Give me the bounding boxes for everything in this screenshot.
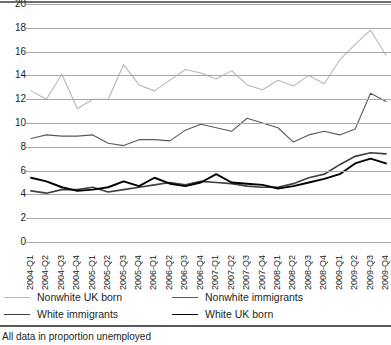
x-axis-tick-label: 2007-Q1 [211,255,220,290]
footnote-divider [0,325,391,327]
x-axis-tick-label: 2005-Q1 [88,255,97,290]
x-axis-tick-label: 2005-Q3 [119,255,128,290]
gridline [30,147,391,148]
legend-label: Nonwhite immigrants [205,292,303,303]
gridline [30,123,391,124]
legend-item[interactable]: Nonwhite immigrants [172,292,303,303]
x-axis-tick-label: 2009-Q3 [366,255,375,290]
gridline [30,4,391,5]
x-axis-tick-label: 2006-Q2 [165,255,174,290]
y-axis-tick [26,75,30,76]
x-axis-tick-label: 2009-Q1 [335,255,344,290]
y-axis-tick [26,123,30,124]
gridline [30,194,391,195]
legend-item[interactable]: White UK born [172,309,273,320]
y-axis-tick [26,194,30,195]
gridline [30,28,391,29]
y-axis-tick [26,147,30,148]
x-axis-tick-label: 2004-Q3 [57,255,66,290]
x-axis-tick-label: 2007-Q4 [258,255,267,290]
y-axis-tick [26,4,30,5]
x-axis-tick-label: 2007-Q2 [227,255,236,290]
gridline [30,99,391,100]
plot-wrapper: 02468101214161820 [0,4,391,242]
x-axis-tick-label: 2006-Q3 [180,255,189,290]
series-line [31,159,386,191]
y-axis-tick [26,218,30,219]
legend-swatch [4,314,30,315]
series-line [31,30,386,109]
x-axis-tick-label: 2009-Q4 [381,255,390,290]
legend-item[interactable]: Nonwhite UK born [4,292,122,303]
series-line [31,153,386,193]
legend-item[interactable]: White immigrants [4,309,118,320]
x-axis-tick-label: 2006-Q4 [196,255,205,290]
legend-label: White immigrants [37,309,118,320]
y-axis-tick-label: 14 [15,70,26,80]
x-axis-tick-label: 2008-Q2 [288,255,297,290]
legend-label: White UK born [205,309,273,320]
y-axis-tick-label: 18 [15,23,26,33]
footnote-text: All data in proportion unemployed [2,331,151,342]
legend-swatch [172,314,198,315]
x-axis-tick-label: 2006-Q1 [149,255,158,290]
legend-label: Nonwhite UK born [37,292,122,303]
y-axis-tick [26,28,30,29]
gridline [30,242,391,243]
legend-swatch [4,297,30,298]
x-axis-tick-label: 2008-Q1 [273,255,282,290]
x-axis-tick-label: 2007-Q3 [242,255,251,290]
x-axis-tick-label: 2005-Q4 [134,255,143,290]
x-axis-tick-label: 2009-Q2 [350,255,359,290]
gridline [30,52,391,53]
gridline [30,75,391,76]
y-axis-tick-label: 12 [15,94,26,104]
chart-legend: Nonwhite UK bornNonwhite immigrantsWhite… [4,292,387,322]
y-axis-tick [26,52,30,53]
y-axis-tick [26,171,30,172]
y-axis-tick [26,242,30,243]
x-axis-tick-label: 2004-Q1 [26,255,35,290]
x-axis-labels: 2004-Q12004-Q22004-Q32004-Q42005-Q12005-… [30,244,391,290]
gridline [30,171,391,172]
gridline [30,218,391,219]
plot-area [30,4,391,242]
x-axis-tick-label: 2008-Q4 [319,255,328,290]
y-axis-labels: 02468101214161820 [0,4,26,242]
series-line [31,93,386,145]
top-divider [0,1,391,3]
legend-swatch [172,297,198,298]
x-axis-tick-label: 2004-Q2 [41,255,50,290]
x-axis-tick-label: 2008-Q3 [304,255,313,290]
y-axis-tick-label: 16 [15,47,26,57]
x-axis-tick-label: 2005-Q2 [103,255,112,290]
x-axis-tick-label: 2004-Q4 [72,255,81,290]
chart-figure: 02468101214161820 2004-Q12004-Q22004-Q32… [0,0,391,345]
y-axis-tick-label: 10 [15,118,26,128]
y-axis-tick-label: 20 [15,0,26,9]
y-axis-tick [26,99,30,100]
